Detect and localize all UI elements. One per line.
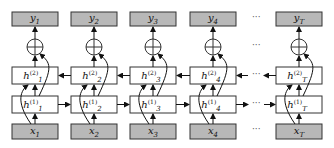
output-label: y2 <box>74 13 114 26</box>
hidden2-label: h(2)2 <box>72 70 112 84</box>
hidden1-label: h(1)4 <box>191 99 231 113</box>
hidden2-label: h(2)T <box>277 70 317 84</box>
hidden2-label: h(2)4 <box>191 70 231 84</box>
output-label: y3 <box>133 13 173 26</box>
input-label: x4 <box>193 126 233 139</box>
ellipsis: ··· <box>252 124 261 134</box>
hidden1-label: h(1)1 <box>13 99 53 113</box>
ellipsis: ··· <box>252 40 261 50</box>
hidden1-label: h(1)2 <box>72 99 112 113</box>
output-label: yT <box>279 13 319 26</box>
hidden1-label: h(1)T <box>277 99 317 113</box>
output-label: y1 <box>15 13 55 26</box>
hidden2-label: h(2)3 <box>131 70 171 84</box>
input-label: x2 <box>74 126 114 139</box>
ellipsis: ··· <box>252 69 261 79</box>
hidden1-label: h(1)3 <box>131 99 171 113</box>
input-label: x1 <box>15 126 55 139</box>
hidden2-label: h(2)1 <box>13 70 53 84</box>
ellipsis: ··· <box>252 98 261 108</box>
rnn-diagram: y1h(2)1h(1)1x1y2h(2)2h(1)2x2y3h(2)3h(1)3… <box>0 0 334 148</box>
ellipsis: ··· <box>252 12 261 22</box>
output-label: y4 <box>193 13 233 26</box>
input-label: xT <box>279 126 319 139</box>
input-label: x3 <box>133 126 173 139</box>
